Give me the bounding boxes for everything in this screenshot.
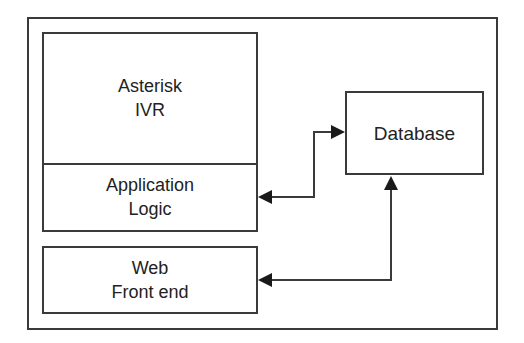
web-db-connector: [270, 188, 391, 280]
arrowhead-up-icon: [384, 176, 398, 190]
arrowhead-left-icon: [258, 190, 272, 204]
connectors: [0, 0, 524, 343]
arrowhead-left-icon: [258, 273, 272, 287]
app-db-connector: [270, 132, 332, 197]
arrowhead-right-icon: [331, 125, 345, 139]
